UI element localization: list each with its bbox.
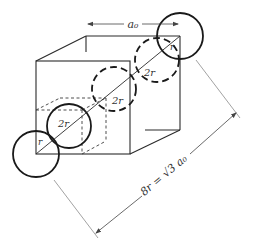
radius-label-top: r [170,42,175,52]
cube-front-face [36,61,130,154]
diameter-label-upper: 2r [143,67,156,78]
body-diagonal-line [36,36,180,154]
extension-line-bottom [54,180,98,238]
unit-cell-diagram: a₀ r 2r 2r 2r r 8r = √3 a₀ [0,0,254,241]
lattice-param-label: a₀ [128,18,140,31]
diameter-label-middle: 2r [111,95,124,106]
radius-label-bottom: r [38,137,43,147]
diameter-label-lower: 2r [57,118,70,129]
body-diagonal-label: 8r = √3 a₀ [138,152,190,199]
extension-line-top [196,60,240,118]
